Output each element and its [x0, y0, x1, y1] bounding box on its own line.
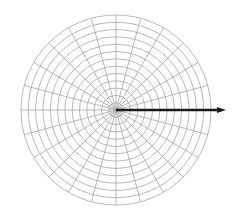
polar-chart-canvas — [0, 0, 237, 223]
polar-chart-figure — [0, 0, 237, 223]
